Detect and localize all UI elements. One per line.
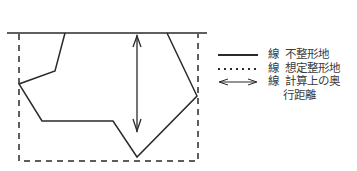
legend-kind: 線 — [268, 62, 279, 76]
assumed-regular-land-rect — [19, 34, 198, 161]
solid-line-icon — [214, 48, 260, 61]
double-arrow-icon — [214, 75, 260, 88]
dotted-line-icon — [214, 62, 260, 75]
legend-label-continuation: 行距離 — [283, 89, 316, 103]
legend-kind: 線 — [268, 48, 279, 62]
depth-distance-arrow — [133, 35, 141, 132]
legend-item-assumed-land: 線 想定整形地 — [214, 62, 340, 76]
legend-kind: 線 — [268, 75, 279, 89]
legend-item-irregular-land: 線 不整形地 — [214, 48, 340, 62]
legend-label: 不整形地 — [285, 48, 329, 62]
legend-label: 想定整形地 — [285, 62, 340, 76]
legend-label: 計算上の奥 — [285, 75, 340, 89]
legend: 線 不整形地 線 想定整形地 線 計算上の奥 行距離 — [214, 48, 340, 102]
legend-item-depth-distance-cont: 行距離 — [214, 89, 340, 103]
irregular-land-outline — [19, 33, 197, 157]
legend-item-depth-distance: 線 計算上の奥 — [214, 75, 340, 89]
